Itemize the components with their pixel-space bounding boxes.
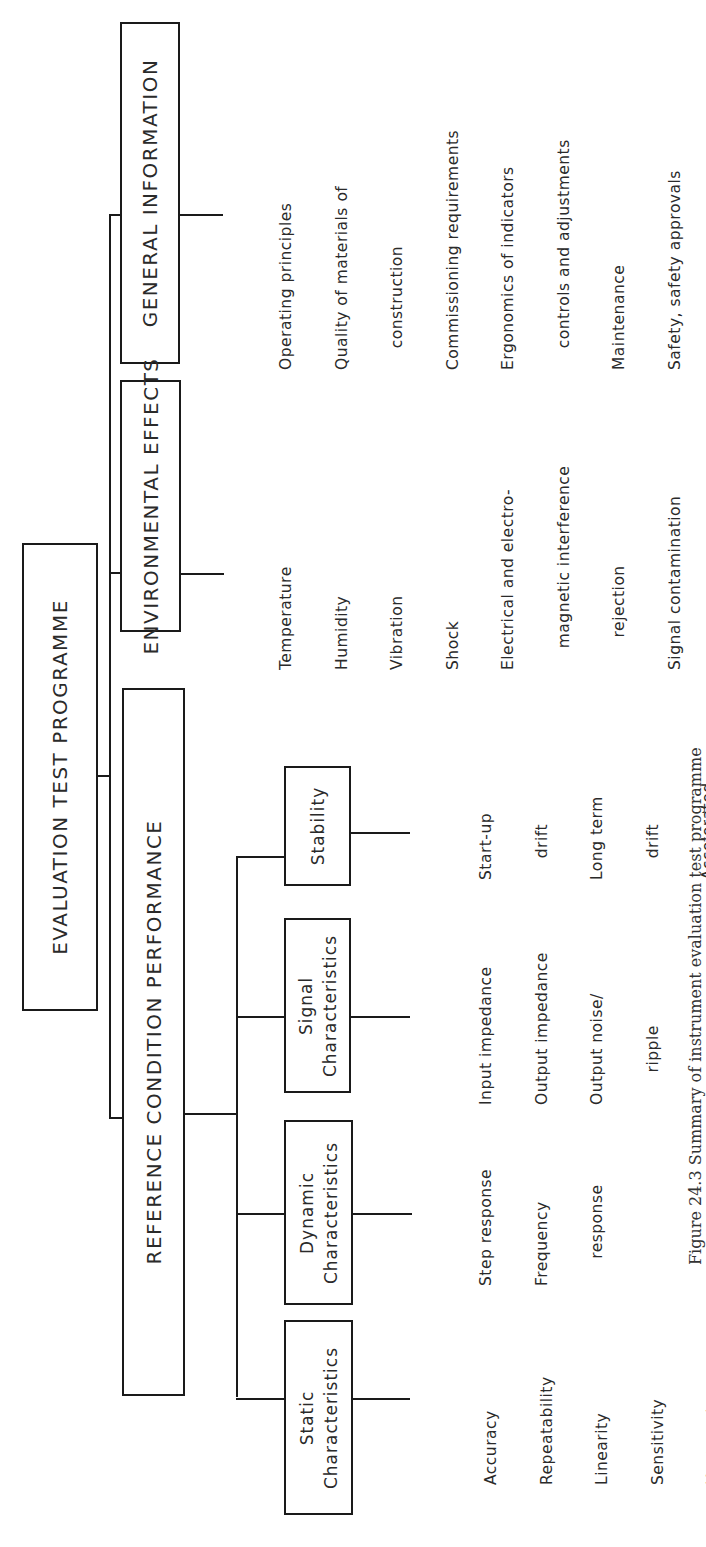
static-label-line1: Static <box>297 1390 317 1445</box>
list-item: response <box>588 1169 607 1286</box>
environmental-effects-list: Temperature Humidity Vibration Shock Ele… <box>240 466 706 670</box>
signal-characteristics-list: Input impedance Output impedance Output … <box>440 952 681 1105</box>
list-item: Shock <box>444 466 463 670</box>
signal-label-line1: Signal <box>296 976 316 1034</box>
connector-reference <box>109 1117 123 1119</box>
dynamic-label-line1: Dynamic <box>297 1172 317 1254</box>
list-item: Output noise/ <box>588 952 607 1105</box>
list-item: Sensitivity <box>649 1376 668 1485</box>
stability-list: Start-up drift Long term drift Accelerat… <box>440 770 706 880</box>
root-node-box: EVALUATION TEST PROGRAMME <box>22 543 98 1011</box>
signal-label-line2: Characteristics <box>320 934 340 1076</box>
reference-condition-box: REFERENCE CONDITION PERFORMANCE <box>122 688 185 1396</box>
list-item: Maintenance <box>610 130 629 370</box>
environmental-effects-label: ENVIRONMENTAL EFFECTS <box>139 357 163 654</box>
connector-reference-subspine <box>184 1113 237 1115</box>
figure-caption: Figure 24.3 Summary of instrument evalua… <box>686 747 705 1265</box>
connector-signal <box>236 1016 286 1018</box>
list-item: Output impedance <box>533 952 552 1105</box>
list-item: Temperature <box>277 466 296 670</box>
connector-static-items <box>352 1398 410 1400</box>
list-item: controls and adjustments <box>555 130 574 370</box>
signal-characteristics-box: Signal Characteristics <box>284 918 351 1093</box>
connector-environmental-items <box>180 573 224 575</box>
list-item: construction <box>388 130 407 370</box>
list-item: rejection <box>610 466 629 670</box>
list-item: Vibration <box>388 466 407 670</box>
list-item: Signal contamination <box>666 466 685 670</box>
environmental-effects-box: ENVIRONMENTAL EFFECTS <box>120 380 181 632</box>
general-information-list: Operating principles Quality of material… <box>240 130 706 370</box>
list-item: Accuracy <box>482 1376 501 1485</box>
list-item: Safety, safety approvals <box>666 130 685 370</box>
list-item: Start-up <box>477 770 496 880</box>
main-spine <box>109 214 111 1119</box>
list-item: drift <box>533 770 552 880</box>
static-characteristics-label: Static Characteristics <box>295 1346 343 1488</box>
general-information-label: GENERAL INFORMATION <box>138 59 162 328</box>
connector-dynamic-items <box>352 1213 412 1215</box>
stability-box: Stability <box>284 766 351 886</box>
dynamic-label-line2: Characteristics <box>321 1141 341 1283</box>
root-node-label: EVALUATION TEST PROGRAMME <box>48 599 72 955</box>
list-item: Ergonomics of indicators <box>499 130 518 370</box>
connector-signal-items <box>350 1016 410 1018</box>
connector-static <box>236 1398 286 1400</box>
connector-stability <box>236 856 286 858</box>
list-item: Long term <box>588 770 607 880</box>
list-item: Operating principles <box>277 130 296 370</box>
static-characteristics-list: Accuracy Repeatability Linearity Sensiti… <box>445 1376 706 1485</box>
signal-characteristics-label: Signal Characteristics <box>294 934 342 1076</box>
dynamic-characteristics-label: Dynamic Characteristics <box>295 1141 343 1283</box>
list-item: drift <box>644 770 663 880</box>
list-item: Linearity <box>593 1376 612 1485</box>
connector-general-info-items <box>179 214 223 216</box>
list-item: Repeatability <box>538 1376 557 1485</box>
connector-stability-items <box>350 832 410 834</box>
static-label-line2: Characteristics <box>321 1346 341 1488</box>
list-item: Frequency <box>533 1169 552 1286</box>
dynamic-characteristics-list: Step response Frequency response <box>440 1169 625 1286</box>
list-item: Humidity <box>333 466 352 670</box>
list-item: Quality of materials of <box>333 130 352 370</box>
reference-condition-label: REFERENCE CONDITION PERFORMANCE <box>142 819 166 1264</box>
list-item: ripple <box>644 952 663 1105</box>
list-item: Input impedance <box>477 952 496 1105</box>
list-item: Electrical and electro- <box>499 466 518 670</box>
list-item: magnetic interference <box>555 466 574 670</box>
stability-label: Stability <box>308 787 328 866</box>
general-information-box: GENERAL INFORMATION <box>120 22 180 364</box>
static-characteristics-box: Static Characteristics <box>284 1320 353 1515</box>
list-item: Step response <box>477 1169 496 1286</box>
dynamic-characteristics-box: Dynamic Characteristics <box>284 1120 353 1305</box>
list-item: Commissioning requirements <box>444 130 463 370</box>
connector-dynamic <box>236 1213 286 1215</box>
sub-spine <box>236 856 238 1397</box>
